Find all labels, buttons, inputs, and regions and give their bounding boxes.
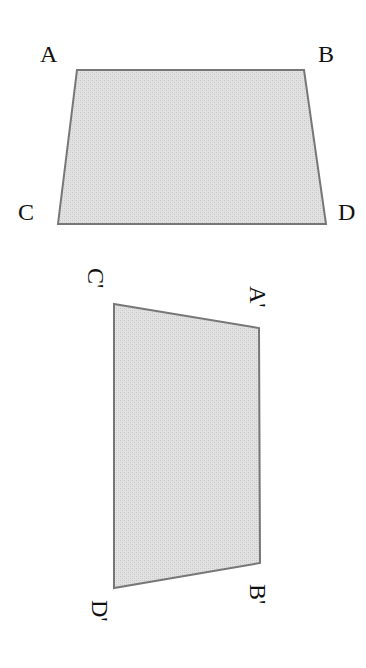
diagram-canvas: A B C D C' A' D' B' [0, 0, 366, 668]
label-c-prime: C' [83, 268, 109, 288]
trapezoid-rotated [114, 304, 260, 588]
label-b-prime: B' [245, 584, 271, 604]
label-d: D [338, 199, 355, 225]
label-b: B [318, 41, 334, 67]
trapezoid-abcd [58, 70, 326, 224]
label-a: A [40, 41, 58, 67]
label-c: C [18, 199, 34, 225]
label-a-prime: A' [245, 286, 271, 308]
label-d-prime: D' [87, 600, 113, 622]
